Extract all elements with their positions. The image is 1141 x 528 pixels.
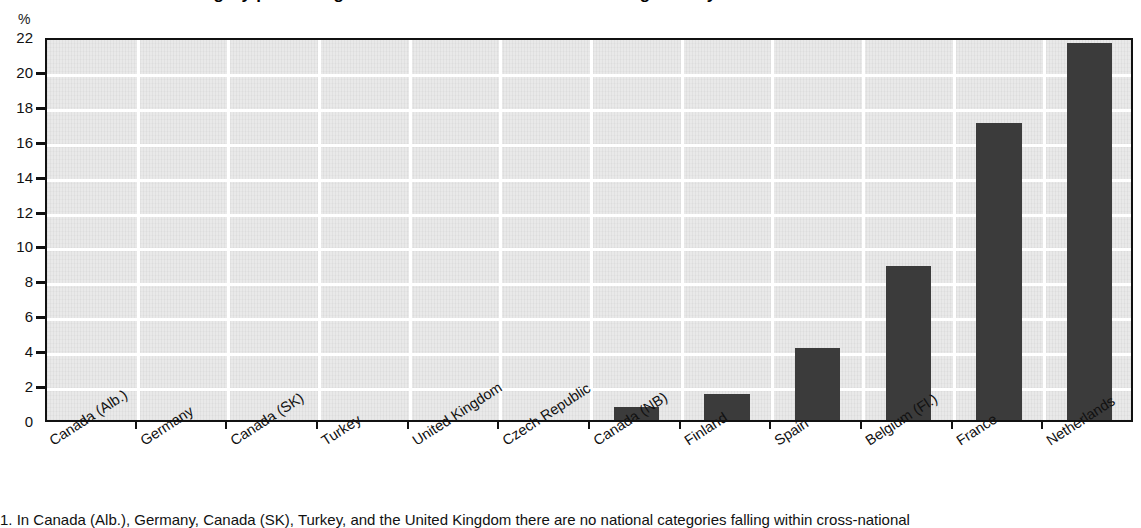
y-axis-label: 6 [3, 309, 33, 324]
figure-footnote: 1. In Canada (Alb.), Germany, Canada (SK… [0, 511, 1141, 528]
gridline-vertical [771, 40, 774, 420]
gridline-vertical [137, 40, 140, 420]
plot-area [45, 38, 1133, 422]
gridline-vertical [409, 40, 412, 420]
bar [976, 123, 1021, 420]
gridline-horizontal [47, 283, 1131, 286]
gridline-horizontal [47, 248, 1131, 251]
gridline-horizontal [47, 318, 1131, 321]
gridline-vertical [1043, 40, 1046, 420]
x-axis-tick [316, 422, 318, 429]
gridline-horizontal [47, 74, 1131, 77]
y-axis-tick [36, 142, 45, 145]
gridline-vertical [499, 40, 502, 420]
x-axis-tick [135, 422, 137, 429]
bar [795, 348, 840, 420]
y-axis-tick [36, 107, 45, 110]
y-axis-unit-label: % [18, 12, 30, 26]
figure-title: Cross-national category per centage of s… [52, 0, 716, 4]
y-axis-label: 2 [3, 379, 33, 394]
gridline-horizontal [47, 214, 1131, 217]
x-axis-tick [951, 422, 953, 429]
y-axis-tick [36, 212, 45, 215]
x-axis-tick [407, 422, 409, 429]
y-axis-label: 18 [3, 100, 33, 115]
y-axis-tick [36, 316, 45, 319]
y-axis-label: 10 [3, 239, 33, 254]
y-axis-label: 22 [3, 30, 33, 45]
y-axis-label: 16 [3, 135, 33, 150]
gridline-horizontal [47, 144, 1131, 147]
bar [1067, 43, 1112, 420]
gridline-horizontal [47, 353, 1131, 356]
y-axis-label: 4 [3, 344, 33, 359]
y-axis-label: 20 [3, 65, 33, 80]
gridline-vertical [681, 40, 684, 420]
gridline-vertical [227, 40, 230, 420]
x-axis-tick [225, 422, 227, 429]
x-axis-tick [860, 422, 862, 429]
y-axis-tick [36, 72, 45, 75]
y-axis-tick [36, 281, 45, 284]
plot-background-texture [47, 40, 1131, 420]
y-axis-tick [36, 246, 45, 249]
gridline-vertical [590, 40, 593, 420]
x-axis-tick [497, 422, 499, 429]
y-axis-label: 12 [3, 205, 33, 220]
x-axis-tick [769, 422, 771, 429]
y-axis-tick [36, 351, 45, 354]
gridline-vertical [318, 40, 321, 420]
gridline-vertical [862, 40, 865, 420]
y-axis-tick [36, 177, 45, 180]
y-axis-label: 0 [3, 414, 33, 429]
y-axis-label: 14 [3, 170, 33, 185]
y-axis-tick [36, 386, 45, 389]
gridline-horizontal [47, 109, 1131, 112]
y-axis-label: 8 [3, 274, 33, 289]
gridline-horizontal [47, 179, 1131, 182]
gridline-vertical [953, 40, 956, 420]
x-axis-tick [679, 422, 681, 429]
x-axis-tick [1041, 422, 1043, 429]
x-axis-tick [588, 422, 590, 429]
